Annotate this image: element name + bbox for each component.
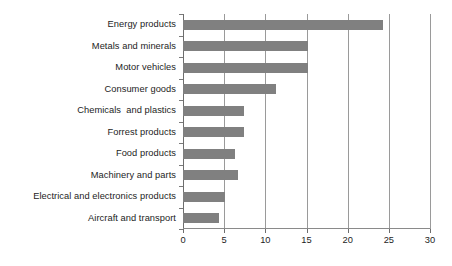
x-axis: 051015202530: [183, 229, 430, 259]
bar-row: [183, 36, 430, 58]
gridline: [430, 14, 431, 229]
y-axis-label-row: Aircraft and transport: [0, 208, 180, 230]
y-axis-label-row: Motor vehicles: [0, 57, 180, 79]
x-axis-tick: [183, 229, 184, 233]
y-axis-label: Motor vehicles: [115, 62, 176, 73]
x-axis-tick: [389, 229, 390, 233]
x-axis-tick-label: 10: [260, 235, 270, 246]
bar-row: [183, 100, 430, 122]
x-axis-tick: [224, 229, 225, 233]
y-axis-label-row: Food products: [0, 143, 180, 165]
y-axis-label: Metals and minerals: [92, 41, 176, 52]
x-axis-tick-label: 30: [425, 235, 435, 246]
y-axis-label-row: Chemicals and plastics: [0, 100, 180, 122]
y-axis-label: Chemicals and plastics: [77, 105, 176, 116]
bar-series: [183, 14, 430, 229]
x-axis-tick: [430, 229, 431, 233]
bar-row: [183, 79, 430, 101]
bar: [183, 20, 383, 30]
bar: [183, 170, 238, 180]
y-axis-label: Electrical and electronics products: [33, 191, 176, 202]
x-axis-tick-label: 0: [180, 235, 185, 246]
y-axis-label: Forrest products: [108, 127, 176, 138]
x-axis-tick-label: 25: [384, 235, 394, 246]
y-axis-label-row: Electrical and electronics products: [0, 186, 180, 208]
y-axis-labels: Energy productsMetals and mineralsMotor …: [0, 14, 180, 229]
bar: [183, 192, 225, 202]
bar: [183, 213, 219, 223]
x-axis-tick: [307, 229, 308, 233]
y-axis-label-row: Metals and minerals: [0, 36, 180, 58]
y-axis-label-row: Forrest products: [0, 122, 180, 144]
bar-row: [183, 143, 430, 165]
bar-row: [183, 122, 430, 144]
bar: [183, 149, 235, 159]
x-axis-tick-label: 20: [342, 235, 352, 246]
y-axis-label-row: Consumer goods: [0, 79, 180, 101]
y-axis-label: Machinery and parts: [91, 170, 176, 181]
bar-row: [183, 186, 430, 208]
bar: [183, 41, 308, 51]
bar: [183, 106, 244, 116]
x-axis-tick: [348, 229, 349, 233]
bar-row: [183, 57, 430, 79]
x-axis-tick-label: 5: [222, 235, 227, 246]
bar-row: [183, 165, 430, 187]
x-axis-tick: [265, 229, 266, 233]
y-axis-label: Food products: [116, 148, 176, 159]
bar-row: [183, 208, 430, 230]
y-axis-label-row: Machinery and parts: [0, 165, 180, 187]
y-axis-label: Consumer goods: [105, 84, 177, 95]
bar: [183, 127, 244, 137]
bar-row: [183, 14, 430, 36]
bar: [183, 63, 308, 73]
bar: [183, 84, 276, 94]
y-axis-label-row: Energy products: [0, 14, 180, 36]
plot-area: [183, 14, 430, 229]
bar-chart: Energy productsMetals and mineralsMotor …: [0, 0, 452, 266]
y-axis-label: Energy products: [108, 19, 176, 30]
x-axis-tick-label: 15: [301, 235, 311, 246]
y-axis-label: Aircraft and transport: [88, 213, 176, 224]
